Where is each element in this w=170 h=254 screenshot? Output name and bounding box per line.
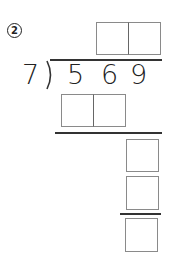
problem-number-badge: 2: [7, 23, 22, 38]
dividend-digit-hundreds: 5: [67, 61, 84, 89]
subtraction-line-2: [120, 213, 161, 215]
division-bracket-icon: [44, 60, 54, 90]
final-remainder-box[interactable]: [125, 218, 158, 252]
remainder-step-box-1[interactable]: [126, 139, 159, 172]
quotient-boxes: [96, 22, 161, 55]
quotient-tens-box[interactable]: [96, 22, 129, 55]
first-product-boxes: [61, 94, 126, 127]
dividend-digit-tens: 6: [101, 61, 118, 89]
first-product-ones-box[interactable]: [93, 94, 126, 127]
first-product-tens-box[interactable]: [61, 94, 94, 127]
remainder-step-box-2[interactable]: [126, 176, 159, 210]
dividend-digit-ones: 9: [130, 61, 147, 89]
divisor: 7: [22, 61, 39, 89]
quotient-ones-box[interactable]: [128, 22, 161, 55]
subtraction-line-1: [55, 132, 162, 134]
